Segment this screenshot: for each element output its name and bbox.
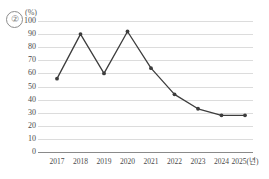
data-point-marker — [243, 113, 247, 117]
data-point-marker — [79, 32, 83, 36]
data-line — [57, 31, 245, 115]
data-point-marker — [220, 113, 224, 117]
plot-area: 1009080706050403020100 20172018201920202… — [0, 0, 269, 179]
line-series-svg — [0, 0, 269, 179]
data-markers-group — [55, 30, 247, 118]
data-point-marker — [173, 92, 177, 96]
data-point-marker — [149, 66, 153, 70]
data-point-marker — [55, 77, 59, 81]
data-point-marker — [126, 30, 130, 34]
chart-figure: ② (%) 1009080706050403020100 20172018201… — [0, 0, 269, 179]
data-point-marker — [196, 107, 200, 111]
data-point-marker — [102, 72, 106, 76]
